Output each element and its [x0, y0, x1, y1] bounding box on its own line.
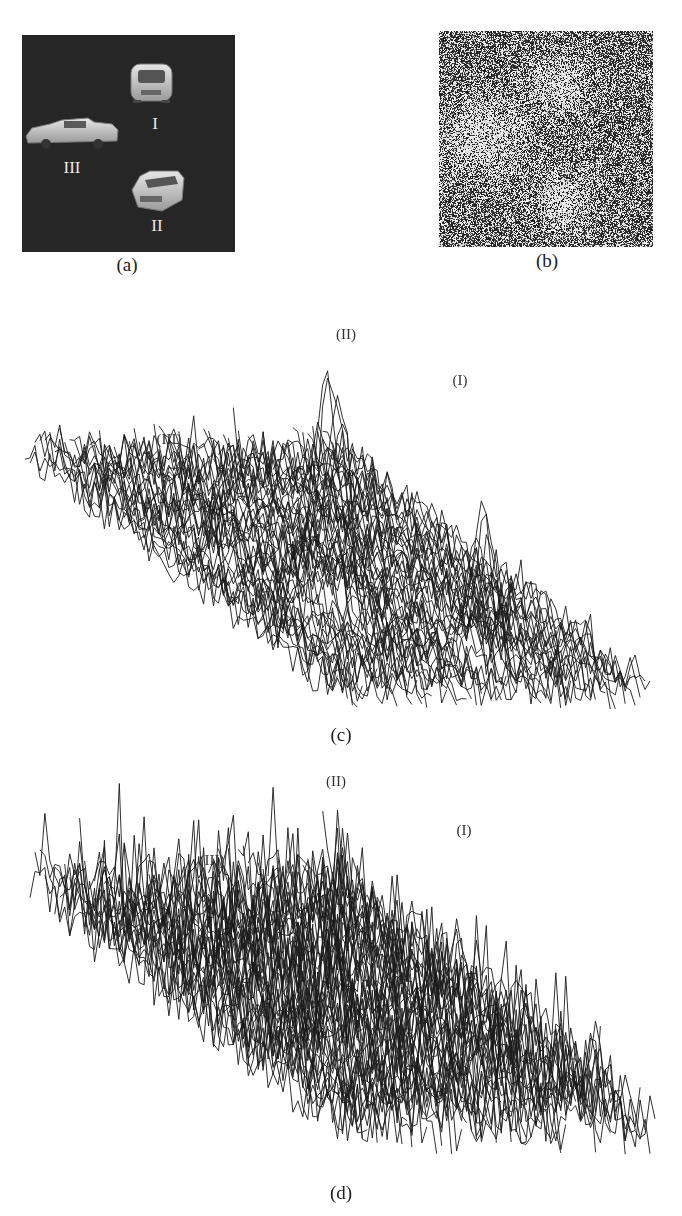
caption-d: (d): [330, 1182, 352, 1204]
correlation-surface-d: [0, 0, 682, 1216]
peak-label-ii-d: (II): [326, 773, 346, 790]
peak-label-iii-d: (III): [200, 852, 225, 869]
peak-label-i-d: (I): [457, 822, 472, 839]
